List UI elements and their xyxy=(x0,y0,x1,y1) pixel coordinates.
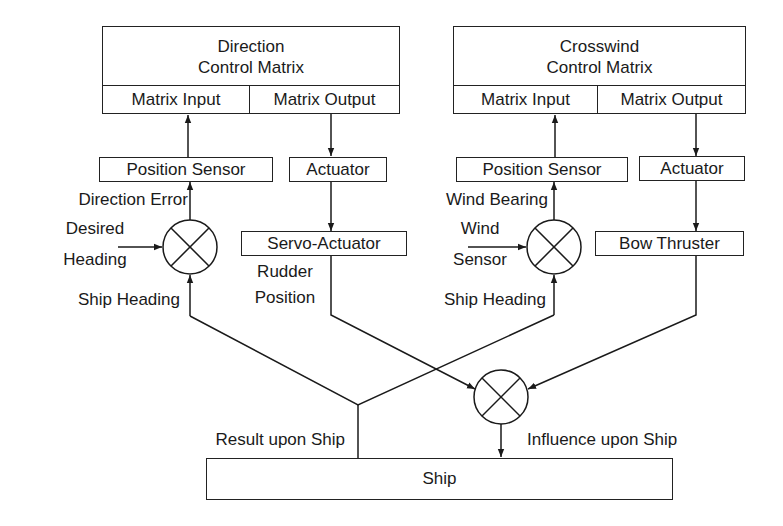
wind-sensor-label-line2: Sensor xyxy=(440,250,520,270)
servo-actuator-box: Servo-Actuator xyxy=(241,231,407,256)
desired-heading-label-line1: Desired xyxy=(40,219,150,239)
crosswind-matrix-output: Matrix Output xyxy=(598,86,745,113)
ship-heading-label-left: Ship Heading xyxy=(30,290,180,310)
bow-thruster-box: Bow Thruster xyxy=(595,231,744,256)
direction-matrix-title-line1: Direction xyxy=(217,36,284,57)
rudder-to-sum xyxy=(331,255,475,389)
influence-upon-ship-label: Influence upon Ship xyxy=(527,430,677,450)
direction-matrix-ports: Matrix Input Matrix Output xyxy=(103,85,399,113)
ship-heading-feedback xyxy=(190,315,554,405)
crosswind-matrix-input: Matrix Input xyxy=(454,86,598,113)
crosswind-matrix-title-line1: Crosswind xyxy=(560,36,639,57)
crosswind-matrix-title-line2: Control Matrix xyxy=(547,57,653,78)
rudder-position-label-line2: Position xyxy=(240,288,330,308)
wind-bearing-label: Wind Bearing xyxy=(400,190,548,210)
direction-matrix-output: Matrix Output xyxy=(250,86,399,113)
direction-matrix-title-line2: Control Matrix xyxy=(198,57,304,78)
ship-heading-label-right: Ship Heading xyxy=(400,290,546,310)
ship-box: Ship xyxy=(206,458,673,500)
crosswind-matrix-title: Crosswind Control Matrix xyxy=(454,27,745,87)
actuator-right: Actuator xyxy=(639,156,745,181)
desired-heading-label-line2: Heading xyxy=(40,250,150,270)
actuator-left: Actuator xyxy=(289,157,387,182)
position-sensor-left: Position Sensor xyxy=(99,157,273,182)
bow-to-sum xyxy=(528,256,696,389)
rudder-position-label-line1: Rudder xyxy=(240,262,330,282)
direction-control-matrix: Direction Control Matrix Matrix Input Ma… xyxy=(102,26,400,114)
wind-sensor-label-line1: Wind xyxy=(440,219,520,239)
direction-matrix-input: Matrix Input xyxy=(103,86,250,113)
result-upon-ship-label: Result upon Ship xyxy=(150,430,345,450)
direction-matrix-title: Direction Control Matrix xyxy=(103,27,399,87)
crosswind-control-matrix: Crosswind Control Matrix Matrix Input Ma… xyxy=(453,26,746,114)
position-sensor-right: Position Sensor xyxy=(456,157,628,182)
crosswind-matrix-ports: Matrix Input Matrix Output xyxy=(454,85,745,113)
direction-error-label: Direction Error xyxy=(30,190,188,210)
